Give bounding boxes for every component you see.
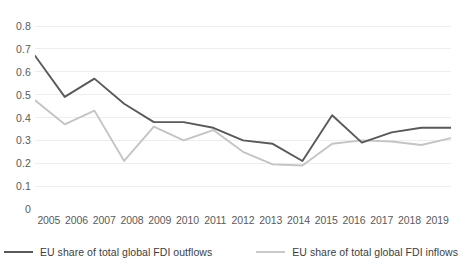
x-tick-label: 2005 (35, 213, 63, 229)
x-tick-label: 2015 (312, 213, 340, 229)
y-tick-label: 0.5 (1, 90, 31, 100)
x-tick-label: 2018 (396, 213, 424, 229)
x-tick-label: 2014 (285, 213, 313, 229)
x-tick-label: 2008 (118, 213, 146, 229)
y-axis: 00.10.20.30.40.50.60.70.8 (0, 26, 31, 209)
x-tick-label: 2006 (63, 213, 91, 229)
y-tick-label: 0.2 (1, 158, 31, 168)
plot-svg (35, 26, 451, 209)
x-tick-label: 2012 (229, 213, 257, 229)
x-tick-label: 2009 (146, 213, 174, 229)
x-tick-label: 2019 (423, 213, 451, 229)
x-axis: 2005200620072008200920102011201220132014… (35, 213, 451, 229)
y-tick-label: 0 (1, 204, 31, 214)
y-tick-label: 0.7 (1, 44, 31, 54)
legend-label: EU share of total global FDI inflows (292, 246, 458, 258)
x-tick-label: 2011 (201, 213, 229, 229)
y-tick-label: 0.6 (1, 67, 31, 77)
y-tick-label: 0.4 (1, 113, 31, 123)
chart-legend: EU share of total global FDI outflowsEU … (0, 243, 462, 261)
legend-line-swatch (256, 251, 285, 253)
legend-label: EU share of total global FDI outflows (40, 246, 212, 258)
fdi-share-line-chart: 00.10.20.30.40.50.60.70.8 20052006200720… (0, 0, 462, 265)
legend-line-swatch (4, 251, 33, 253)
y-tick-label: 0.3 (1, 135, 31, 145)
x-tick-label: 2010 (174, 213, 202, 229)
legend-entry[interactable]: EU share of total global FDI inflows (256, 246, 458, 258)
x-tick-label: 2016 (340, 213, 368, 229)
x-tick-label: 2013 (257, 213, 285, 229)
x-tick-label: 2017 (368, 213, 396, 229)
x-tick-label: 2007 (90, 213, 118, 229)
y-tick-label: 0.1 (1, 181, 31, 191)
legend-entry[interactable]: EU share of total global FDI outflows (4, 246, 212, 258)
plot-area (35, 26, 451, 209)
y-tick-label: 0.8 (1, 21, 31, 31)
